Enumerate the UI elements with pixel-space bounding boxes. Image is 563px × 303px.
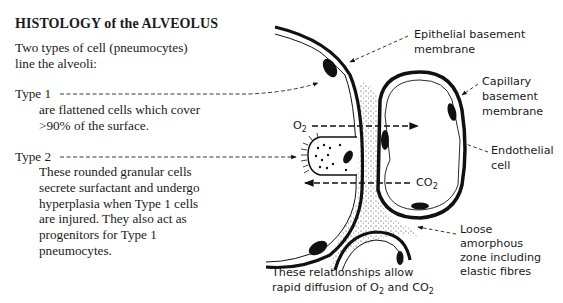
type1-leader-line xyxy=(60,83,318,94)
endothelial-leader xyxy=(463,143,488,152)
endothelial-nucleus-bottom xyxy=(411,203,429,210)
endothelial-nucleus-right xyxy=(446,102,458,121)
label-o2: O2 xyxy=(293,118,307,133)
lower-nucleus xyxy=(397,251,404,265)
label-capillary-basement-membrane: Capillary basement membrane xyxy=(482,74,543,119)
label-line: cell xyxy=(491,158,554,173)
label-line: basement xyxy=(482,89,543,104)
label-loose-amorphous-zone: Loose amorphous zone including elastic f… xyxy=(460,223,541,279)
label-line: Capillary xyxy=(482,74,543,89)
label-line: membrane xyxy=(414,42,525,57)
loose-zone-leader xyxy=(418,227,456,234)
caption-line: These relationships allow xyxy=(272,265,434,280)
label-line: elastic fibres xyxy=(460,265,541,279)
caption-line: rapid diffusion of O2 and CO2 xyxy=(272,280,434,295)
label-line: amorphous xyxy=(460,237,541,251)
label-line: membrane xyxy=(482,104,543,119)
label-line: Epithelial basement xyxy=(414,27,525,42)
label-endothelial-cell: Endothelial cell xyxy=(491,143,554,173)
epithelial-leader xyxy=(350,36,408,62)
label-line: zone including xyxy=(460,251,541,265)
label-co2: CO2 xyxy=(416,175,438,190)
label-epithelial-basement-membrane: Epithelial basement membrane xyxy=(414,27,525,57)
diagram-caption: These relationships allow rapid diffusio… xyxy=(272,265,434,295)
label-line: Endothelial xyxy=(491,143,554,158)
endothelial-nucleus-left xyxy=(381,130,389,150)
capillary-leader xyxy=(462,84,478,95)
endothelium xyxy=(385,80,460,210)
label-line: Loose xyxy=(460,223,541,237)
